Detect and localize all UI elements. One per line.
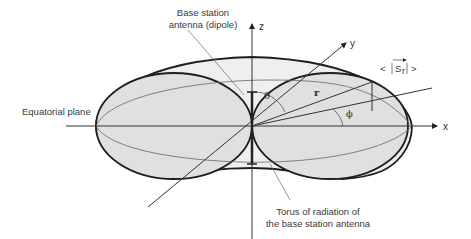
- y-axis-label: y: [350, 38, 355, 49]
- svg-text:S: S: [395, 63, 401, 74]
- theta-symbol: θ: [264, 90, 270, 101]
- svg-text:<: <: [380, 63, 386, 74]
- dipole-torus-diagram: z y x θ ϕ r Base station antenna (dipole…: [0, 0, 471, 239]
- svg-text:>: >: [411, 63, 417, 74]
- torus-label-line1: Torus of radiation of: [276, 206, 360, 217]
- antenna-label-line1: Base station: [177, 7, 229, 18]
- radius-symbol: r: [314, 87, 320, 98]
- x-axis-label: x: [443, 121, 448, 132]
- phi-symbol: ϕ: [346, 108, 353, 119]
- equatorial-plane-label: Equatorial plane: [22, 106, 91, 117]
- z-axis-label: z: [259, 21, 264, 32]
- svg-text:r: r: [402, 65, 405, 76]
- torus-label-line2: the base station antenna: [266, 218, 371, 229]
- poynting-vector-label: < S r >: [380, 60, 417, 76]
- antenna-label-line2: antenna (dipole): [169, 19, 238, 30]
